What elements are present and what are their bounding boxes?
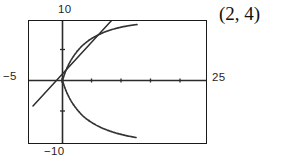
graph-canvas: [0, 0, 286, 163]
axis-label-right: 25: [212, 72, 225, 84]
axis-label-top: 10: [58, 4, 71, 16]
point-annotation: (2, 4): [219, 4, 260, 23]
tangent-line: [33, 20, 112, 106]
graph-figure: 10 −5 25 −10 (2, 4): [0, 0, 286, 163]
axis-label-left: −5: [3, 71, 17, 83]
axis-label-bottom: −10: [44, 146, 64, 158]
parabola-lower-branch: [63, 81, 137, 138]
